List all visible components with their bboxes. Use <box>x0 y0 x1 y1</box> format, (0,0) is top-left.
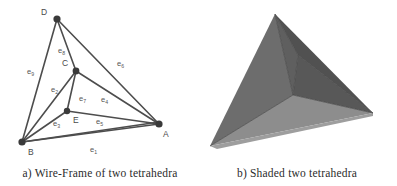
vertex-label-C: C <box>62 58 68 68</box>
edge-e6-line <box>57 19 159 124</box>
edge-e9-line <box>22 19 57 142</box>
caption-shaded: b) Shaded two tetrahedra <box>197 160 397 186</box>
edge-label-e1: e1 <box>90 145 97 155</box>
shaded-drawing <box>197 0 397 160</box>
figure-two-tetrahedra: D C B E A e1 e2 e3 e4 <box>0 0 397 186</box>
panel-wireframe: D C B E A e1 e2 e3 e4 <box>0 0 200 160</box>
edge-label-e3: e3 <box>53 119 60 129</box>
edge-label-e2: e2 <box>51 85 58 95</box>
edge-e5-line <box>67 111 159 124</box>
vertex-label-B: B <box>28 147 34 157</box>
edge-label-e9: e9 <box>27 67 34 77</box>
edge-label-e5: e5 <box>96 117 103 127</box>
edge-label-e6: e6 <box>117 59 124 69</box>
caption-wireframe: a) Wire-Frame of two tetrahedra <box>0 160 200 186</box>
edge-label-e7: e7 <box>79 94 86 104</box>
wireframe-drawing: D C B E A e1 e2 e3 e4 <box>0 0 200 160</box>
edge-B-A-upper-line <box>22 122 159 142</box>
vertex-B-dot <box>18 138 25 145</box>
edge-e4-line <box>76 71 159 124</box>
vertex-E-dot <box>64 108 70 114</box>
vertex-label-D: D <box>41 7 47 17</box>
wireframe-edges <box>22 19 159 142</box>
vertex-C-dot <box>73 68 80 75</box>
vertex-label-E: E <box>73 115 79 125</box>
wireframe-vertex-labels: D C B E A <box>28 7 169 157</box>
vertex-label-A: A <box>163 129 169 139</box>
vertex-A-dot <box>155 120 162 127</box>
vertex-D-dot <box>53 15 60 22</box>
edge-label-e4: e4 <box>101 95 108 105</box>
edge-label-e8: e8 <box>58 46 65 56</box>
panel-shaded <box>197 0 397 160</box>
